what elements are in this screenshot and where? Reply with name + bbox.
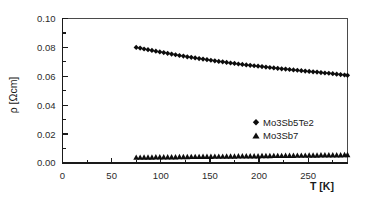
x-tick-label: 100 [153,170,169,181]
y-tick-label: 0.06 [37,71,56,82]
x-axis-title: T [K] [310,180,334,192]
y-axis-title: ρ [Ωcm] [7,77,19,114]
y-tick-label: 0.10 [37,13,56,24]
x-tick-label: 150 [202,170,218,181]
resistivity-scatter-plot: 0.000.020.040.060.080.10 050100150200250… [0,0,370,211]
legend-label-1: Mo3Sb7 [263,130,298,141]
legend-label-0: Mo3Sb5Te2 [263,117,314,128]
y-tick-label: 0.04 [37,100,56,111]
y-tick-label: 0.00 [37,157,56,168]
x-tick-label: 200 [251,170,267,181]
x-tick-label: 50 [106,170,117,181]
y-tick-label: 0.08 [37,42,56,53]
y-tick-label: 0.02 [37,129,56,140]
chart-figure: 0.000.020.040.060.080.10 050100150200250… [0,0,370,211]
x-tick-label: 0 [60,170,65,181]
